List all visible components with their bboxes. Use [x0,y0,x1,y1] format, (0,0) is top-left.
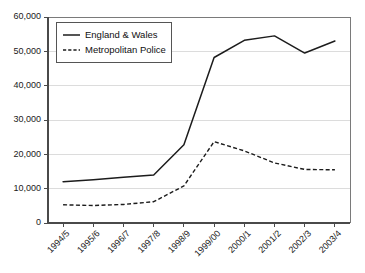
legend-label-metropolitan-police: Metropolitan Police [85,44,166,55]
y-tick-label: 50,000 [13,46,41,56]
y-tick-label: 40,000 [13,80,41,90]
y-tick-label: 10,000 [13,183,41,193]
line-chart: 010,00020,00030,00040,00050,00060,000 19… [0,0,365,273]
y-tick-label: 60,000 [13,11,41,21]
y-tick-label: 30,000 [13,114,41,124]
legend-box [56,22,171,62]
chart-legend: England & Wales Metropolitan Police [56,22,171,62]
chart-container: 010,00020,00030,00040,00050,00060,000 19… [0,0,365,273]
legend-label-england-wales: England & Wales [85,29,158,40]
y-tick-label: 20,000 [13,149,41,159]
y-tick-label: 0 [36,217,41,227]
